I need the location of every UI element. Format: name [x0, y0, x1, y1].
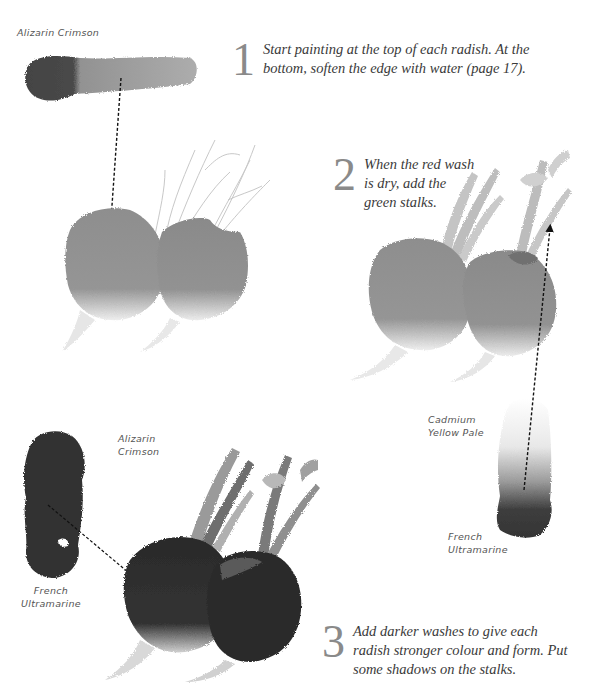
paint-label-alizarin-crimson-2: Alizarin Crimson — [118, 432, 166, 458]
step-1-number: 1 — [232, 41, 255, 79]
step2-radish-left — [350, 238, 472, 380]
step3-swatch — [24, 431, 85, 578]
step-2-text: When the red wash is dry, add the green … — [364, 156, 474, 210]
step1-radish-left — [62, 208, 165, 352]
step-3-text: Add darker washes to give each radish st… — [353, 623, 568, 677]
step-2-instruction: 2 When the red wash is dry, add the gree… — [333, 155, 478, 212]
step-1-text: Start painting at the top of each radish… — [263, 41, 529, 76]
paint-label-alizarin-crimson-1: Alizarin Crimson — [17, 26, 99, 39]
instruction-page: Alizarin Crimson Cadmium Yellow Pale Fre… — [0, 0, 595, 684]
paint-label-cadmium-yellow-pale: Cadmium Yellow Pale — [428, 413, 498, 439]
step-3-number: 3 — [322, 623, 345, 661]
step-2-number: 2 — [333, 156, 356, 194]
step-3-instruction: 3 Add darker washes to give each radish … — [322, 622, 572, 679]
paint-label-french-ultramarine-1: French Ultramarine — [448, 530, 518, 556]
step-1-instruction: 1 Start painting at the top of each radi… — [232, 40, 532, 79]
step2-swatch — [497, 398, 552, 538]
watercolor-illustrations — [0, 0, 595, 684]
paint-label-french-ultramarine-2: French Ultramarine — [18, 584, 84, 610]
step1-swatch — [25, 56, 197, 101]
